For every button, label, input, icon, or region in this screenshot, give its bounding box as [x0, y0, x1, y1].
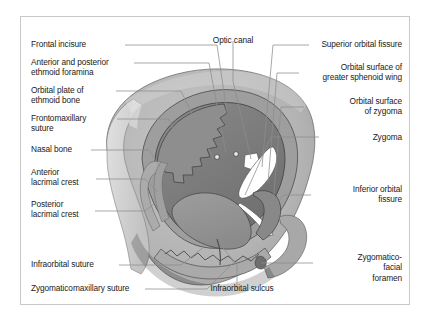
label-orbital-surface-zygoma: Orbital surface of zygoma [259, 96, 402, 117]
label-frontomaxillary-suture: Frontomaxillary suture [31, 113, 86, 134]
label-posterior-lacrimal-crest: Posterior lacrimal crest [31, 199, 78, 220]
posterior-ethmoid-foramen-marker [234, 152, 239, 157]
anatomy-figure-panel: Frontal incisure Anterior and posterior … [20, 16, 410, 305]
label-zygoma: Zygoma [259, 132, 402, 142]
anterior-ethmoid-foramen-marker [215, 155, 220, 160]
label-infraorbital-sulcus: Infraorbital sulcus [197, 283, 287, 293]
label-frontal-incisure: Frontal incisure [31, 39, 86, 49]
label-ethmoid-foramina: Anterior and posterior ethmoid foramina [31, 57, 109, 78]
label-infraorbital-suture: Infraorbital suture [31, 259, 94, 269]
label-zygomaticomaxillary-suture: Zygomaticomaxillary suture [31, 283, 129, 293]
label-anterior-lacrimal-crest: Anterior lacrimal crest [31, 167, 78, 188]
label-superior-orbital-fissure: Superior orbital fissure [259, 39, 402, 49]
label-orbital-plate-ethmoid: Orbital plate of ethmoid bone [31, 85, 83, 106]
label-nasal-bone: Nasal bone [31, 144, 72, 154]
label-zygomaticofacial-foramen: Zygomatico- facial foramen [259, 252, 402, 283]
label-orbital-surface-sphenoid: Orbital surface of greater sphenoid wing [259, 62, 402, 83]
label-optic-canal: Optic canal [203, 35, 263, 45]
label-inferior-orbital-fissure: Inferior orbital fissure [259, 184, 402, 205]
